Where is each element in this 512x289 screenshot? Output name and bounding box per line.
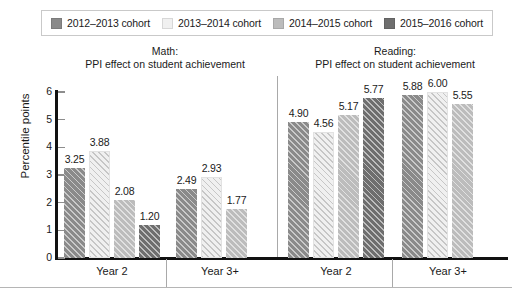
y-axis-tick-4 [58,147,65,149]
bar [201,177,222,258]
y-axis-label-2: 2 [34,196,52,208]
x-axis-group-label: Year 3+ [398,265,498,277]
group-divider-math [166,259,167,287]
y-axis-label-0: 0 [34,251,52,263]
bar-value-label: 1.20 [132,210,167,222]
bar-value-label: 3.25 [57,153,92,165]
bar-value-label: 1.77 [219,194,254,206]
bar [288,122,309,258]
bar [89,151,110,258]
bar [139,225,160,258]
bar-value-label: 5.77 [356,83,391,95]
bar [64,168,85,258]
y-axis-tick-5 [58,119,65,121]
y-axis-label-6: 6 [34,85,52,97]
bar-value-label: 4.56 [306,117,341,129]
bar [363,98,384,258]
y-axis-title: Percentile points [19,56,31,216]
bar-value-label: 5.55 [445,89,480,101]
y-axis-label-3: 3 [34,168,52,180]
bar [427,92,448,258]
bar [176,189,197,258]
y-axis-label-1: 1 [34,223,52,235]
bar [402,95,423,258]
bar-value-label: 5.17 [331,100,366,112]
y-axis-label-4: 4 [34,140,52,152]
panel-divider [277,76,278,257]
bar-value-label: 2.49 [169,174,204,186]
bar-value-label: 6.00 [420,77,455,89]
x-axis-group-label: Year 3+ [170,265,270,277]
bar-value-label: 3.88 [82,136,117,148]
bar [226,209,247,258]
bar-value-label: 2.93 [194,162,229,174]
bar-value-label: 2.08 [107,185,142,197]
chart-plot-area: Percentile points 0123456 3.253.882.081.… [0,0,512,289]
y-axis-tick-6 [58,91,65,93]
bar [338,115,359,258]
bar [313,132,334,258]
x-axis-group-label: Year 2 [286,265,386,277]
figure-bottom-rule [0,287,512,288]
y-axis-label-5: 5 [34,113,52,125]
bar [452,104,473,258]
group-divider-reading [392,259,393,287]
x-axis-group-label: Year 2 [62,265,162,277]
